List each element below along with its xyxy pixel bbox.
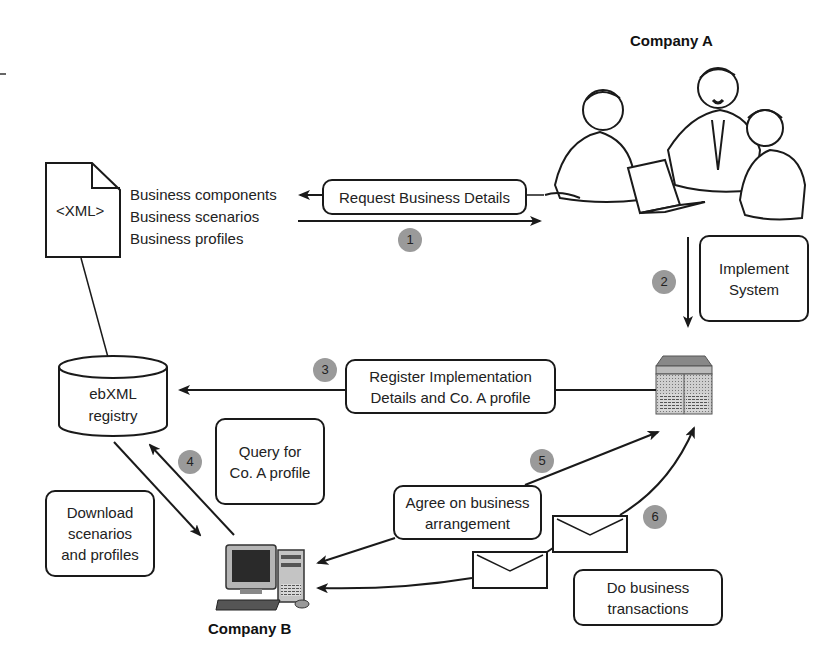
- step4-query-box: Query for Co. A profile: [215, 418, 325, 505]
- step3-register-implementation-box: Register Implementation Details and Co. …: [345, 359, 556, 414]
- step4-badge: 4: [178, 450, 202, 474]
- step6-badge: 6: [643, 505, 667, 529]
- step5-label-line1: Agree on business: [405, 492, 529, 513]
- step5-label-line2: arrangement: [425, 513, 510, 534]
- download-label-line3: and profiles: [61, 544, 139, 565]
- step4-label-line2: Co. A profile: [230, 462, 311, 483]
- step2-label-line2: System: [729, 279, 779, 300]
- step2-label-line1: Implement: [719, 258, 789, 279]
- step6-label-line2: transactions: [608, 598, 689, 619]
- registry-label-line1: ebXML: [63, 383, 163, 404]
- xml-document-label: <XML>: [56, 200, 104, 221]
- envelope-icon: [553, 516, 627, 552]
- step6-arrow-to-server: [620, 428, 694, 515]
- download-label-line2: scenarios: [68, 523, 132, 544]
- step1-label: Request Business Details: [339, 187, 510, 208]
- step3-label-line1: Register Implementation: [369, 366, 532, 387]
- step6-business-transactions-box: Do business transactions: [573, 569, 723, 626]
- download-scenarios-box: Download scenarios and profiles: [45, 490, 155, 577]
- server-icon: [656, 356, 712, 414]
- company-a-people-icon: [545, 68, 805, 219]
- step5-agree-arrangement-box: Agree on business arrangement: [393, 485, 542, 540]
- step2-implement-system-box: Implement System: [699, 235, 809, 322]
- step6-label-line1: Do business: [607, 577, 690, 598]
- xml-contents-item: Business components: [130, 184, 277, 205]
- step2-badge: 2: [652, 270, 676, 294]
- step1-badge: 1: [398, 228, 422, 252]
- step6-arrow-to-computer: [318, 578, 472, 588]
- company-b-label: Company B: [208, 618, 291, 639]
- registry-label-line2: registry: [63, 405, 163, 426]
- step5-arrow-to-computer: [318, 538, 395, 563]
- xml-registry-connector: [81, 258, 112, 372]
- step5-badge: 5: [530, 449, 554, 473]
- step3-label-line2: Details and Co. A profile: [370, 387, 530, 408]
- envelope-icon: [473, 552, 547, 588]
- download-label-line1: Download: [67, 502, 134, 523]
- xml-contents-item: Business scenarios: [130, 206, 259, 227]
- step3-badge: 3: [313, 358, 337, 382]
- company-b-computer-icon: [216, 545, 309, 610]
- step1-request-business-details-box: Request Business Details: [322, 179, 527, 215]
- company-a-label: Company A: [630, 30, 713, 51]
- step4-label-line1: Query for: [239, 441, 302, 462]
- xml-contents-item: Business profiles: [130, 228, 243, 249]
